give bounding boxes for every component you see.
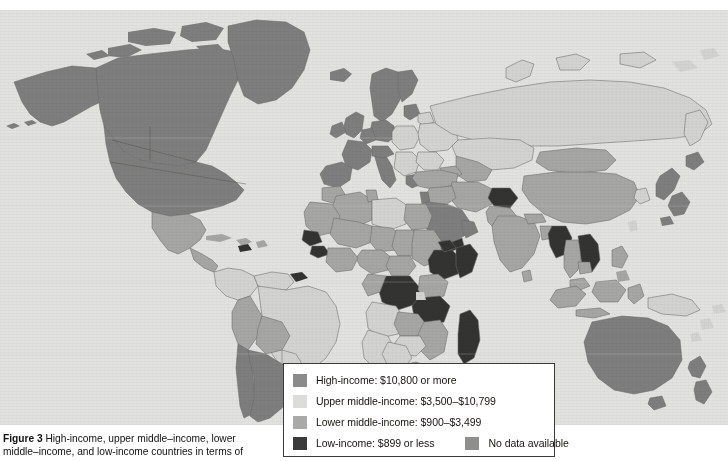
legend-swatch-low-income [293, 437, 307, 450]
map-legend: High-income: $10,800 or more Upper middl… [283, 363, 555, 457]
caption-line-1: Figure 3 High-income, upper middle–incom… [3, 433, 275, 446]
legend-row-low-income-and-no-data: Low-income: $899 or less No data availab… [293, 433, 554, 454]
legend-swatch-lower-middle-income [293, 416, 307, 429]
caption-text-1: High-income, upper middle–income, lower [45, 433, 235, 444]
legend-item-no-data: No data available [465, 437, 568, 450]
legend-label-no-data: No data available [488, 437, 568, 450]
caption-line-2: middle–income, and low-income countries … [3, 446, 275, 459]
legend-label-low-income: Low-income: $899 or less [316, 437, 434, 450]
legend-label-high-income: High-income: $10,800 or more [316, 374, 456, 387]
legend-label-lower-middle-income: Lower middle-income: $900–$3,499 [316, 416, 481, 429]
legend-item-upper-middle-income: Upper middle-income: $3,500–$10,799 [293, 391, 554, 412]
legend-item-lower-middle-income: Lower middle-income: $900–$3,499 [293, 412, 554, 433]
legend-item-high-income: High-income: $10,800 or more [293, 370, 554, 391]
figure-caption: Figure 3 High-income, upper middle–incom… [3, 433, 275, 458]
figure-3-world-income-map: .hi{fill:#7e7e7e;} .up{fill:#d3d3d1;} .l… [0, 0, 728, 461]
legend-swatch-high-income [293, 374, 307, 387]
figure-number: Figure 3 [3, 433, 43, 444]
legend-swatch-no-data [465, 437, 479, 450]
legend-label-upper-middle-income: Upper middle-income: $3,500–$10,799 [316, 395, 496, 408]
legend-swatch-upper-middle-income [293, 395, 307, 408]
